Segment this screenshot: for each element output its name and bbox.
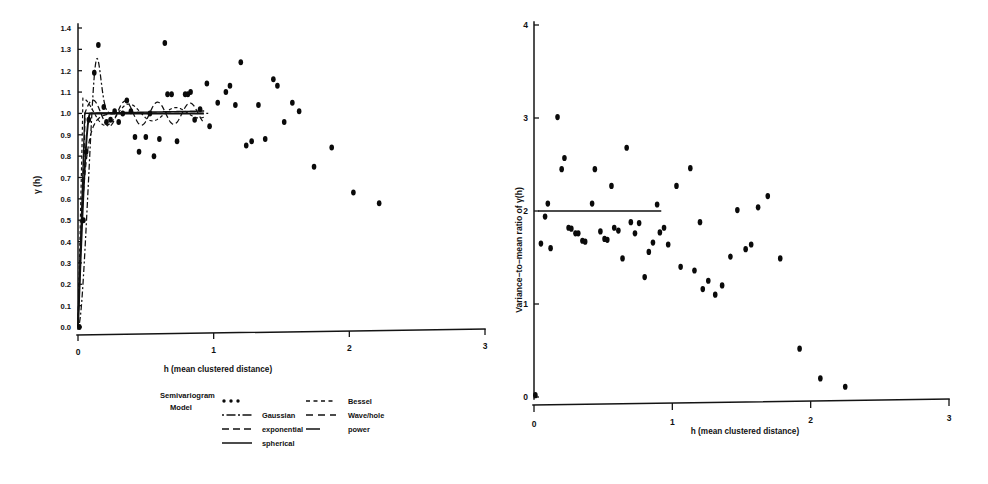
legend-marker-dots [236,399,239,402]
legend-title-line1: Semivariogram [160,391,215,400]
data-point [706,278,711,284]
data-point [157,136,162,142]
y-axis-tick-label: 1.3 [60,45,71,54]
y-axis-tick-label: 1.0 [60,109,71,118]
y-axis-tick-label: 1.4 [60,24,71,33]
data-point [233,102,238,108]
data-point [749,241,754,247]
data-point [743,246,748,252]
legend-label-wave-hole: Wave/hole [348,411,384,420]
y-axis-tick-label: 0.3 [60,259,71,268]
data-point [569,226,574,232]
data-point [797,346,802,352]
semivariogram-model-curves [78,59,208,327]
x-axis-tick-label: 1 [211,345,216,355]
data-point [616,227,621,233]
data-point [590,200,595,206]
data-point [713,292,718,298]
variance-to-mean-axes: 012340123 [523,20,951,429]
y-axis-tick-label: 0.6 [60,195,71,204]
data-point [700,286,705,292]
x-axis-tick-label: 1 [670,417,675,427]
legend-label-bessel: Bessel [348,397,372,406]
semivariogram-axes: 0.00.10.20.30.40.50.60.70.80.91.01.11.21… [60,24,487,357]
data-point [593,166,598,172]
figure-root: 0.00.10.20.30.40.50.60.70.80.91.01.11.21… [0,0,988,484]
data-point [559,166,564,172]
semivariogram-svg: 0.00.10.20.30.40.50.60.70.80.91.01.11.21… [0,0,500,484]
y-axis-tick-label: 0.8 [60,152,71,161]
data-point [148,110,153,116]
data-point [112,108,117,114]
y-axis-title-gamma-h: γ (h) [32,176,42,194]
data-point [629,219,634,225]
data-point [735,207,740,213]
data-point [84,149,89,155]
data-point [647,249,652,255]
data-point [818,375,823,381]
curve-wavehole [78,100,204,327]
data-point [539,240,544,246]
data-point [637,220,642,226]
data-point [351,189,356,195]
data-point [215,100,220,106]
data-point [312,164,317,170]
x-axis-line [77,329,485,335]
data-point [666,241,671,247]
data-point [662,225,667,231]
legend-marker-dots [229,399,232,402]
data-point [144,134,149,140]
y-axis-tick-label: 1.1 [60,88,71,97]
y-axis-tick-label: 0.5 [60,216,71,225]
data-point [674,183,679,189]
x-axis-title-h-right: h (mean clustered distance) [691,427,800,436]
data-point [152,153,157,159]
curve-gaussian [78,59,157,327]
data-point [655,201,660,207]
data-point [108,117,113,123]
data-point [543,213,548,219]
data-point [843,384,848,390]
y-axis-tick-label: 0.4 [60,238,71,247]
data-point [137,149,142,155]
data-point [605,237,610,243]
data-point [598,228,603,234]
x-axis-tick-label: 3 [947,413,952,423]
x-axis-line [533,399,949,405]
data-point [698,219,703,225]
data-point [728,253,733,259]
data-point [81,217,86,223]
data-point [765,193,770,199]
y-axis-tick-label: 0.9 [60,131,71,140]
data-point [87,117,92,123]
data-point [609,183,614,189]
data-point [116,119,121,125]
data-point [624,145,629,151]
data-point [96,42,101,48]
chart-panel-semivariogram: 0.00.10.20.30.40.50.60.70.80.91.01.11.21… [0,0,500,484]
y-axis-tick-label: 1.2 [60,67,71,76]
data-point [658,229,663,235]
data-point [249,138,254,144]
data-point [720,282,725,288]
variance-to-mean-data-points [533,114,847,398]
data-point [555,114,560,120]
data-point [275,83,280,89]
legend-label-gaussian: Gaussian [262,411,296,420]
data-point [256,102,261,108]
data-point [297,108,302,114]
variance-to-mean-svg: 012340123 Variance−to−mean ratio of γ(h)… [500,0,988,484]
legend-marker-dots [222,399,225,402]
data-point [198,106,203,112]
data-point [548,245,553,251]
data-point [129,108,134,114]
data-point [756,204,761,210]
data-point [205,81,210,87]
data-point [688,165,693,171]
data-point [163,40,168,46]
data-point [282,119,287,125]
y-axis-tick-label: 0.7 [60,174,71,183]
data-point [77,324,82,330]
y-axis-tick-label: 3 [523,113,528,123]
x-axis-tick-label: 0 [76,347,81,357]
